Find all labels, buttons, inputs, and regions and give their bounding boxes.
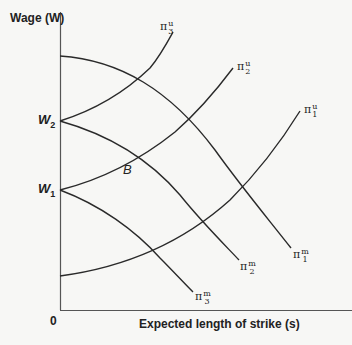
curve-pi-u1 [60, 111, 300, 276]
w1-tick-label: W1 [38, 181, 55, 199]
y-axis-label: Wage (W) [10, 11, 64, 25]
w2-tick-label: W2 [38, 112, 55, 130]
pi-u3-label: πu3 [160, 20, 173, 36]
x-axis-label: Expected length of strike (s) [139, 317, 300, 331]
strike-diagram [0, 0, 352, 345]
curve-pi-m1 [60, 56, 291, 248]
point-b-label: B [123, 162, 132, 177]
pi-m1-label: πm1 [293, 248, 309, 264]
pi-m2-label: πm2 [240, 260, 256, 276]
curve-pi-m2 [60, 121, 239, 260]
origin-label: 0 [50, 314, 57, 328]
pi-m3-label: πm3 [195, 290, 211, 306]
pi-u1-label: πu1 [304, 103, 317, 119]
pi-u2-label: πu2 [237, 60, 250, 76]
curve-pi-u3 [60, 32, 173, 121]
